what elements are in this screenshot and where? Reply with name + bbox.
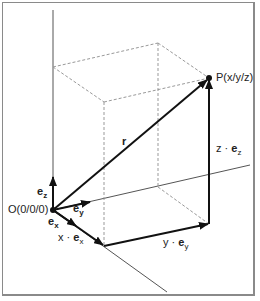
x-component-label: x · ex xyxy=(58,232,83,246)
ey-label: ey xyxy=(73,203,84,217)
r-vector xyxy=(53,80,207,210)
origin-label: O(0/0/0) xyxy=(8,204,48,215)
z-component-label: z · ez xyxy=(216,143,241,157)
vectors xyxy=(53,80,209,246)
y-component-label: y · ey xyxy=(163,237,188,251)
r-label: r xyxy=(122,136,126,147)
ez-label: ez xyxy=(37,186,47,200)
ex-label: ex xyxy=(48,216,59,230)
y-component-vector xyxy=(104,224,208,246)
origin-point xyxy=(50,207,56,213)
point-p-label: P(x/y/z) xyxy=(216,72,253,83)
point-p xyxy=(206,75,212,81)
